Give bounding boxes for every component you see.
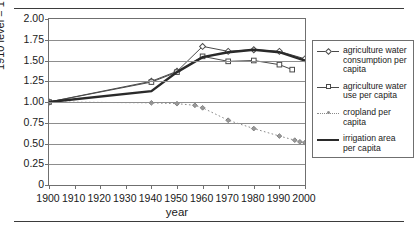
gridline: [49, 81, 305, 82]
x-tick-label: 1950: [164, 192, 187, 204]
x-tick-label: 1920: [88, 192, 111, 204]
x-tick-mark: [177, 185, 178, 189]
x-tick-label: 1940: [139, 192, 162, 204]
legend-item[interactable]: agriculture water consumption per capita: [317, 46, 409, 75]
y-tick-mark: [45, 164, 49, 165]
y-tick-mark: [45, 19, 49, 20]
x-tick-mark: [49, 185, 50, 189]
figure-chart-per-capita-indices: 1910 level = 1 00.250.500.751.001.251.50…: [0, 0, 418, 231]
y-tick-label: 0.75: [0, 117, 44, 128]
y-tick-label: 1.25: [0, 75, 44, 86]
x-tick-mark: [126, 185, 127, 189]
x-tick-label: 1910: [62, 192, 85, 204]
legend-key-icon: [317, 46, 339, 57]
x-tick-label: 1980: [241, 192, 264, 204]
legend-key-icon: [317, 134, 339, 145]
y-tick-label: 2.00: [0, 13, 44, 24]
legend-item[interactable]: cropland per capita: [317, 108, 409, 127]
gridline: [49, 40, 305, 41]
x-tick-label: 1960: [190, 192, 213, 204]
x-tick-label: 1970: [216, 192, 239, 204]
x-tick-label: 1990: [267, 192, 290, 204]
legend-item-label: cropland per capita: [343, 108, 409, 127]
y-tick-label: 0.25: [0, 158, 44, 169]
series-marker-2: [193, 103, 198, 108]
y-tick-mark: [45, 102, 49, 103]
x-tick-mark: [228, 185, 229, 189]
chart-area: 1910 level = 1 00.250.500.751.001.251.50…: [0, 12, 418, 218]
x-tick-mark: [254, 185, 255, 189]
legend-item-label: agriculture water consumption per capita: [343, 46, 409, 75]
legend-marker-diamond-icon: [325, 47, 332, 54]
gridline: [49, 123, 305, 124]
figure-top-rule: [14, 8, 404, 9]
y-tick-mark: [45, 81, 49, 82]
legend-key-icon: [317, 108, 339, 119]
y-tick-label: 1.00: [0, 96, 44, 107]
legend-item-label: agriculture water use per capita: [343, 82, 409, 101]
figure-bottom-rule: [14, 221, 404, 222]
legend-line: [317, 139, 339, 141]
legend-item[interactable]: irrigation area per capita: [317, 134, 409, 153]
y-tick-mark: [45, 40, 49, 41]
series-marker-1: [277, 62, 282, 67]
gridline: [49, 61, 305, 62]
series-marker-2: [251, 126, 256, 131]
series-marker-2: [292, 138, 297, 143]
x-tick-label: 1930: [113, 192, 136, 204]
x-tick-mark: [305, 185, 306, 189]
chart-legend: agriculture water consumption per capita…: [312, 40, 414, 158]
y-tick-mark: [45, 61, 49, 62]
y-tick-label: 0: [0, 179, 44, 190]
series-marker-2: [277, 134, 282, 139]
series-marker-1: [290, 67, 295, 72]
gridline: [49, 102, 305, 103]
gridline: [49, 164, 305, 165]
x-tick-mark: [279, 185, 280, 189]
plot-frame: [48, 18, 306, 186]
x-tick-label: 1900: [36, 192, 59, 204]
y-tick-label: 0.50: [0, 138, 44, 149]
legend-marker-square-icon: [326, 84, 331, 89]
gridline: [49, 144, 305, 145]
x-axis-title: year: [48, 206, 306, 218]
series-marker-2: [200, 105, 205, 110]
legend-key-icon: [317, 82, 339, 93]
x-tick-mark: [203, 185, 204, 189]
x-axis-tick-labels: 1900191019201930194019501960197019801990…: [48, 192, 306, 206]
x-tick-mark: [75, 185, 76, 189]
legend-marker-dot-icon: [327, 111, 330, 114]
x-tick-label: 2000: [292, 192, 315, 204]
x-tick-mark: [151, 185, 152, 189]
legend-item[interactable]: agriculture water use per capita: [317, 82, 409, 101]
legend-item-label: irrigation area per capita: [343, 134, 409, 153]
y-tick-label: 1.50: [0, 55, 44, 66]
y-tick-mark: [45, 144, 49, 145]
y-tick-label: 1.75: [0, 34, 44, 45]
y-tick-mark: [45, 123, 49, 124]
x-tick-mark: [100, 185, 101, 189]
